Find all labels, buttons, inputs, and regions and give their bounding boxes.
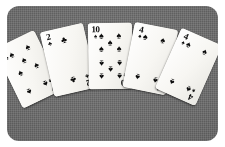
card-suit-spade-icon: ♠ [99,45,104,54]
card-suit-spade-icon: ♠ [117,58,122,67]
table-surface: 7♠7♠♠♠♠♠♠♠♠2♣2♣♣♣10♠10♠♠♠♠♠♠♠♠♠♠♠4♠4♠♠♠♠… [7,6,218,141]
card-suit-spade-icon: ♠ [108,38,113,47]
card-suit-spade-icon: ♠ [117,45,122,54]
card-suit-spade-icon: ♠ [20,55,28,65]
card-fan: 7♠7♠♠♠♠♠♠♠♠2♣2♣♣♣10♠10♠♠♠♠♠♠♠♠♠♠♠4♠4♠♠♠♠… [7,6,218,141]
card-suit-club-icon: ♣ [60,35,68,45]
card-suit-spade-icon: ♠ [41,78,49,88]
card-suit-spade-icon: ♠ [168,76,176,86]
card-suit-spade-icon: ♠ [25,86,33,96]
card-suit-spade-icon: ♠ [8,50,16,60]
card-suit-spade-icon: ♠ [160,36,166,46]
card-suit-spade-icon: ♠ [99,72,104,81]
card-pip-grid: ♠♠♠♠♠♠♠♠♠♠ [97,32,124,80]
playing-card-photo: 7♠7♠♠♠♠♠♠♠♠2♣2♣♣♣10♠10♠♠♠♠♠♠♠♠♠♠♠4♠4♠♠♠♠… [0,0,225,147]
card-suit-spade-icon: ♠ [16,68,24,78]
card-suit-spade-icon: ♠ [24,43,32,53]
card-suit-club-icon: ♣ [69,74,77,84]
card-suit-spade-icon: ♠ [32,60,40,70]
card-suit-spade-icon: ♠ [116,31,121,40]
card-suit-spade-icon: ♠ [184,40,192,50]
card-suit-spade-icon: ♠ [99,31,104,40]
card-suit-spade-icon: ♠ [135,71,141,81]
card-suit-spade-icon: ♠ [99,58,104,67]
card-suit-spade-icon: ♠ [108,65,113,74]
card-suit-spade-icon: ♠ [117,71,122,80]
card-suit-spade-icon: ♠ [200,47,208,57]
card-suit-spade-icon: ♠ [184,83,192,93]
card-suit-spade-icon: ♠ [142,33,148,43]
